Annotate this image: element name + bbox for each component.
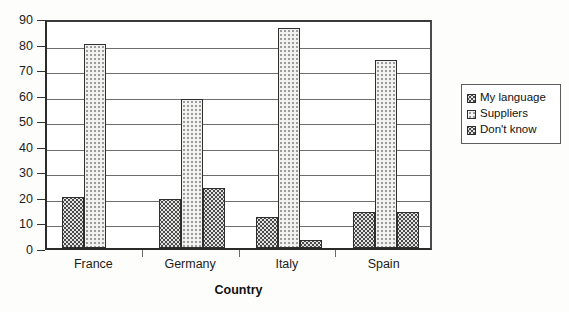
x-axis-title: Country bbox=[45, 283, 432, 297]
y-axis-tick-label: 60 bbox=[5, 91, 33, 104]
y-axis-tick bbox=[37, 71, 45, 72]
x-axis-category-label: Italy bbox=[239, 258, 336, 272]
chart-screenshot: 0102030405060708090 FranceGermanyItalySp… bbox=[0, 0, 569, 312]
y-axis-tick-label: 90 bbox=[5, 14, 33, 27]
y-axis-tick-label: 20 bbox=[5, 193, 33, 206]
legend-item-label: Don't know bbox=[480, 124, 537, 136]
x-axis-category-label: Germany bbox=[142, 258, 239, 272]
bar bbox=[397, 212, 419, 248]
chart-legend: My languageSuppliersDon't know bbox=[461, 84, 561, 144]
y-axis-tick-label: 80 bbox=[5, 40, 33, 53]
legend-item-label: My language bbox=[480, 92, 546, 104]
x-axis-tick bbox=[142, 250, 143, 257]
legend-swatch-icon bbox=[467, 126, 476, 135]
y-axis-tick-label: 0 bbox=[5, 244, 33, 257]
plot-area bbox=[45, 20, 432, 250]
y-axis-tick bbox=[37, 46, 45, 47]
legend-swatch-icon bbox=[467, 110, 476, 119]
y-axis-tick bbox=[37, 122, 45, 123]
bar bbox=[300, 240, 322, 248]
y-axis-tick-label: 30 bbox=[5, 167, 33, 180]
bar bbox=[62, 197, 84, 248]
bar bbox=[256, 217, 278, 248]
y-axis-tick bbox=[37, 148, 45, 149]
x-axis-tick bbox=[335, 250, 336, 257]
bar bbox=[278, 28, 300, 248]
legend-item[interactable]: My language bbox=[467, 90, 554, 106]
x-axis-category-label: France bbox=[45, 258, 142, 272]
y-axis-tick bbox=[37, 199, 45, 200]
y-axis-tick-label: 40 bbox=[5, 142, 33, 155]
bar bbox=[181, 99, 203, 249]
x-axis-category-label: Spain bbox=[335, 258, 432, 272]
bar bbox=[353, 212, 375, 248]
bar bbox=[375, 60, 397, 248]
y-axis-tick bbox=[37, 224, 45, 225]
y-axis-tick bbox=[37, 20, 45, 21]
y-axis-tick bbox=[37, 173, 45, 174]
legend-item[interactable]: Don't know bbox=[467, 122, 554, 138]
x-axis-tick bbox=[239, 250, 240, 257]
y-axis-tick bbox=[37, 97, 45, 98]
legend-item-label: Suppliers bbox=[480, 108, 528, 120]
bar bbox=[203, 188, 225, 248]
y-axis-tick-label: 10 bbox=[5, 218, 33, 231]
y-axis-tick-label: 50 bbox=[5, 116, 33, 129]
bar bbox=[159, 199, 181, 248]
bar bbox=[84, 44, 106, 248]
y-axis-tick-label: 70 bbox=[5, 65, 33, 78]
legend-swatch-icon bbox=[467, 94, 476, 103]
legend-item[interactable]: Suppliers bbox=[467, 106, 554, 122]
y-axis-tick bbox=[37, 250, 45, 251]
